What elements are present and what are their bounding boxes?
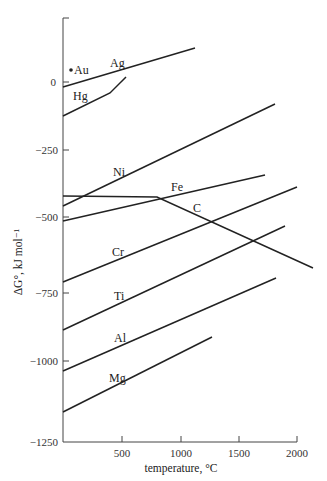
x-tick-label: 1500	[228, 447, 251, 459]
series-label-c: C	[193, 201, 201, 215]
series-al-line	[63, 278, 276, 371]
x-tick-label: 1000	[170, 447, 193, 459]
y-tick-label: −1000	[30, 355, 59, 367]
series-ni-line	[63, 104, 275, 206]
y-tick-label: −250	[35, 144, 58, 156]
series-label-fe: Fe	[171, 180, 183, 194]
series-label-hg: Hg	[73, 89, 88, 103]
series-ti-line	[63, 226, 285, 330]
series-mg-line	[63, 337, 212, 412]
series-label-ag: Ag	[110, 56, 125, 70]
series-au-point	[69, 68, 73, 72]
series-label-ti: Ti	[114, 289, 125, 303]
x-tick-label: 500	[114, 447, 131, 459]
series-label-mg: Mg	[109, 371, 126, 385]
series-label-au: Au	[74, 63, 89, 77]
series-labels: Au Ag Hg Ni Fe C Cr Ti Al Mg	[73, 56, 201, 385]
y-tick-label: −1250	[30, 436, 59, 448]
ellingham-diagram: 500 1000 1500 2000 0 −250 −500 −750 −100…	[0, 0, 327, 481]
x-tick-label: 2000	[286, 447, 309, 459]
y-tick-labels: 0 −250 −500 −750 −1000 −1250	[30, 76, 59, 448]
x-axis-title: temperature, °C	[145, 462, 218, 475]
y-tick-label: −750	[35, 287, 58, 299]
series-label-al: Al	[114, 331, 127, 345]
series-cr-line	[63, 187, 297, 282]
series-lines	[63, 48, 313, 412]
series-fe-line	[63, 175, 265, 221]
series-label-ni: Ni	[113, 165, 126, 179]
y-axis-title: ΔG°, kJ mol⁻¹	[12, 228, 25, 295]
series-label-cr: Cr	[112, 245, 124, 259]
y-tick-label: −500	[35, 211, 58, 223]
axes	[63, 18, 297, 442]
x-tick-labels: 500 1000 1500 2000	[114, 447, 309, 459]
y-tick-label: 0	[51, 76, 57, 88]
